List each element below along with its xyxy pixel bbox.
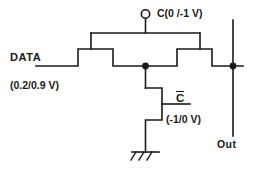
data-input-label: DATA [10,52,41,63]
clock-bar-voltage-label: (-1/0 V) [166,114,201,125]
circuit-diagram: DATA (0.2/0.9 V) C(0 /-1 V) C (-1/0 V) O… [0,0,259,171]
ground-hatch-3 [147,152,152,160]
ground-hatch-1 [131,152,136,160]
clock-bar-label: C [176,91,184,105]
clock-bar-symbol: C [176,91,184,105]
left-pass-transistor-channel [36,49,145,66]
output-junction-dot [230,63,237,70]
output-label: Out [217,139,236,150]
clock-terminal-circle [141,10,149,18]
pulldown-transistor-channel [146,88,163,152]
ground-hatch-2 [139,152,144,160]
center-junction-dot [142,63,149,70]
clock-label: C(0 /-1 V) [157,8,203,19]
data-voltage-label: (0.2/0.9 V) [10,80,59,91]
right-pass-transistor-channel [145,49,243,66]
schematic-wires [36,10,243,160]
